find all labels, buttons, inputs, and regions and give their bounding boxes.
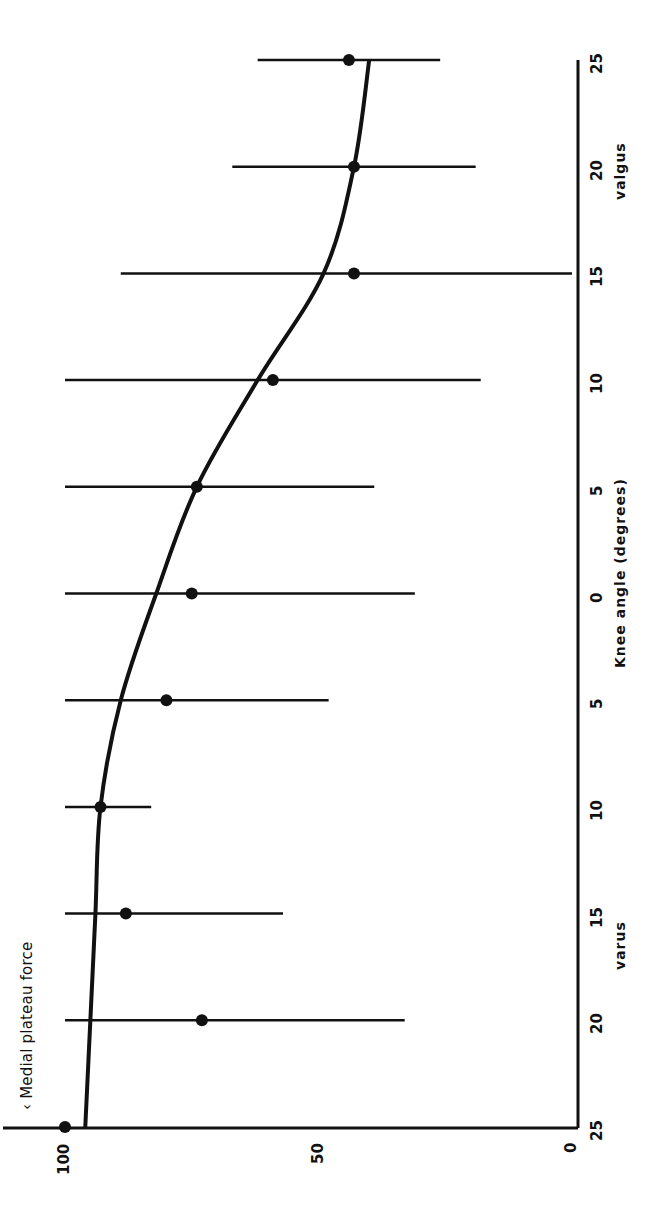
angle-tick-label: 15 (588, 907, 606, 928)
data-point (267, 374, 279, 386)
data-point (59, 1121, 71, 1133)
data-point (160, 694, 172, 706)
error-bars (65, 60, 572, 1020)
angle-tick-label: 10 (588, 373, 606, 394)
angle-tick-label: 25 (588, 1120, 606, 1141)
angle-tick-label: 20 (588, 1013, 606, 1034)
data-point (186, 588, 198, 600)
data-point (191, 481, 203, 493)
x-axis-title: Knee angle (degrees) (612, 478, 628, 668)
angle-tick-label: 0 (588, 592, 606, 602)
valgus-label: valgus (612, 142, 628, 200)
data-point (196, 1014, 208, 1026)
data-point (348, 161, 360, 173)
angle-tick-label: 25 (588, 53, 606, 74)
legend-label: Medial plateau force (18, 942, 36, 1099)
force-tick-label: 50 (309, 1143, 327, 1164)
angle-tick-label: 5 (588, 699, 606, 709)
angle-tick-label: 15 (588, 267, 606, 288)
data-point (94, 801, 106, 813)
angle-tick-label: 10 (588, 800, 606, 821)
force-tick-label: 0 (562, 1143, 580, 1153)
force-tick-label: 100 (55, 1144, 73, 1175)
data-point (120, 908, 132, 920)
angle-tick-label: 5 (588, 485, 606, 495)
varus-label: varus (612, 921, 628, 970)
angle-tick-label: 20 (588, 160, 606, 181)
data-point (348, 267, 360, 279)
chart-canvas (0, 0, 645, 1215)
legend: ‹ Medial plateau force (18, 942, 36, 1110)
legend-arrow-icon: ‹ (18, 1104, 36, 1110)
data-point (343, 54, 355, 66)
